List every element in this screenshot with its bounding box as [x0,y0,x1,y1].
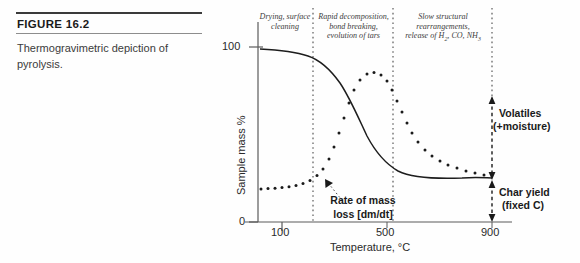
char-arrow-down [489,214,496,222]
dtg-rate-curve [260,71,486,191]
x-tick-label-900: 900 [481,226,499,238]
figure-page: FIGURE 16.2 Thermogravimetric depiction … [0,0,580,263]
volatiles-annotation: Volatiles (+moisture) [499,107,550,133]
volatiles-arrow-up [489,96,496,104]
dtg-leader-arrow [325,179,333,188]
y-tick-label-100: 100 [222,40,240,52]
x-axis-title: Temperature, °C [330,241,410,253]
zone-label-drying: Drying, surface cleaning [258,12,312,31]
zone-3-line3: release of H2, CO, NH3 [396,31,490,44]
volatiles-arrow-down [489,172,496,180]
char-arrow-up [489,180,496,188]
dtg-annotation: Rate of mass loss [dm/dt] [303,194,423,221]
y-axis-title: Sample mass % [235,116,247,195]
x-tick-label-100: 100 [271,226,289,238]
zone-label-slow-rearrangements: Slow structural rearrangements, release … [396,12,490,44]
x-tick-label-500: 500 [376,226,394,238]
tga-mass-curve [260,49,492,178]
thermogravimetric-chart: Drying, surface cleaning Rapid decomposi… [0,0,580,263]
zone-label-rapid-decomposition: Rapid decomposition, bond breaking, evol… [316,12,391,41]
char-yield-annotation: Char yield (fixed C) [499,186,550,212]
y-tick-label-0: 0 [239,215,245,227]
